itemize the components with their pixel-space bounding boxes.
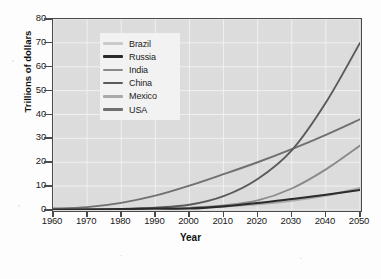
x-tick-mark — [223, 212, 225, 217]
legend-label: India — [129, 65, 148, 75]
scan-speckle — [12, 60, 14, 62]
y-tick-mark — [44, 137, 52, 139]
legend-label: Mexico — [129, 91, 157, 101]
series-line-india — [53, 146, 360, 210]
legend-swatch-icon — [103, 55, 123, 58]
legend-item-mexico: Mexico — [103, 90, 177, 103]
legend-label: Brazil — [129, 39, 151, 49]
scan-speckle — [120, 255, 122, 256]
legend-item-russia: Russia — [103, 50, 177, 63]
plot-area — [52, 18, 362, 212]
x-axis-title: Year — [0, 232, 381, 243]
x-tick-mark — [359, 212, 361, 217]
y-tick-label: 70 — [6, 36, 46, 47]
x-tick-mark — [188, 212, 190, 217]
legend-item-usa: USA — [103, 103, 177, 116]
x-tick-mark — [86, 212, 88, 217]
legend-label: USA — [129, 105, 147, 115]
y-tick-label: 50 — [6, 84, 46, 95]
y-tick-label: 10 — [6, 179, 46, 190]
x-tick-mark — [120, 212, 122, 217]
chart-legend: BrazilRussiaIndiaChinaMexicoUSA — [100, 33, 180, 120]
y-tick-label: 80 — [6, 12, 46, 23]
x-tick-mark — [154, 212, 156, 217]
legend-swatch-icon — [103, 42, 123, 45]
y-tick-mark — [44, 18, 52, 20]
legend-label: China — [129, 78, 152, 88]
legend-item-india: India — [103, 63, 177, 76]
x-tick-mark — [325, 212, 327, 217]
x-tick-mark — [52, 212, 54, 217]
scan-speckle — [300, 258, 302, 259]
x-tick-mark — [291, 212, 293, 217]
legend-swatch-icon — [103, 82, 123, 85]
y-tick-mark — [44, 66, 52, 68]
y-tick-label: 40 — [6, 108, 46, 119]
legend-swatch-icon — [103, 69, 123, 72]
legend-swatch-icon — [103, 108, 123, 111]
y-tick-label: 20 — [6, 155, 46, 166]
legend-swatch-icon — [103, 95, 123, 98]
scan-speckle — [240, 85, 241, 86]
y-tick-mark — [44, 114, 52, 116]
legend-item-china: China — [103, 77, 177, 90]
gdp-projection-chart: Trillions of dollars 01020304050607080 1… — [0, 0, 381, 279]
scan-speckle — [18, 205, 20, 207]
legend-item-brazil: Brazil — [103, 37, 177, 50]
y-tick-mark — [44, 90, 52, 92]
y-tick-mark — [44, 185, 52, 187]
x-tick-mark — [257, 212, 259, 217]
y-tick-mark — [44, 42, 52, 44]
y-tick-label: 30 — [6, 131, 46, 142]
legend-label: Russia — [129, 52, 156, 62]
chart-page: Trillions of dollars 01020304050607080 1… — [0, 0, 381, 279]
scan-speckle — [96, 35, 97, 36]
y-tick-label: 0 — [6, 203, 46, 214]
y-tick-mark — [44, 161, 52, 163]
y-tick-mark — [44, 209, 52, 211]
scan-speckle — [68, 30, 69, 31]
scan-speckle — [205, 170, 206, 171]
